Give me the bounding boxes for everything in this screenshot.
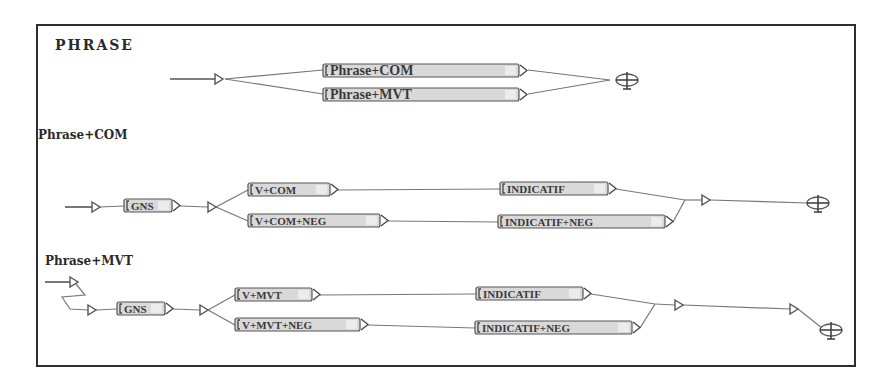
state-arrow-icon (790, 304, 798, 314)
graph-box[interactable]: INDICATIF (500, 182, 616, 195)
state-arrow-icon (200, 305, 208, 315)
box-highlight (505, 90, 516, 99)
transition-edge (100, 206, 124, 207)
box-highlight (618, 323, 629, 332)
output-arrow-icon (331, 184, 338, 195)
final-state-icon (820, 322, 842, 339)
transition-edge (62, 284, 88, 310)
graphs-layer: Phrase+COMPhrase+MVTGNSV+COMV+COM+NEGIND… (45, 63, 842, 340)
output-arrow-icon (313, 289, 320, 300)
transition-edge (640, 304, 655, 328)
output-arrow-icon (166, 303, 173, 314)
output-arrow-icon (609, 183, 616, 194)
transition-edge (216, 207, 248, 221)
box-highlight (651, 217, 662, 226)
box-label: V+MVT (242, 289, 283, 301)
transition-edge (673, 200, 685, 222)
transition-edge (528, 80, 610, 94)
transition-edge (96, 309, 117, 310)
title-phrase-com: Phrase+COM (38, 128, 128, 142)
transition-edge (683, 305, 790, 309)
transition-edge (798, 309, 822, 328)
output-arrow-icon (381, 215, 388, 226)
graph-box[interactable]: V+COM+NEG (248, 214, 388, 227)
graph-phrase-mvt: GNSV+MVTV+MVT+NEGINDICATIFINDICATIF+NEG (45, 277, 842, 339)
box-highlight (158, 201, 169, 210)
output-arrow-icon (361, 319, 368, 330)
box-label: Phrase+MVT (330, 87, 413, 102)
transition-edge (320, 294, 476, 295)
transition-edge (208, 310, 235, 325)
initial-state-icon (92, 202, 100, 212)
transition-edge (528, 70, 610, 80)
graph-box[interactable]: V+COM (248, 183, 338, 196)
graph-box[interactable]: GNS (117, 302, 173, 315)
box-label: GNS (131, 200, 154, 212)
box-label: V+COM+NEG (255, 215, 327, 227)
transition-edge (338, 189, 500, 190)
graph-box[interactable]: INDICATIF+NEG (475, 321, 640, 334)
title-phrase: PHRASE (55, 37, 134, 53)
title-phrase-mvt: Phrase+MVT (45, 254, 133, 268)
box-label: V+COM (255, 184, 297, 196)
state-arrow-icon (88, 305, 96, 315)
final-state-icon (807, 195, 829, 212)
graph-box[interactable]: Phrase+COM (323, 63, 527, 78)
graph-box[interactable]: V+MVT+NEG (235, 318, 368, 331)
transition-edge (591, 294, 655, 304)
output-arrow-icon (520, 65, 527, 76)
graph-box[interactable]: INDICATIF (476, 287, 591, 300)
graph-box[interactable]: Phrase+MVT (323, 87, 527, 102)
state-arrow-icon (702, 195, 710, 205)
transition-edge (225, 79, 323, 94)
output-arrow-icon (633, 322, 640, 333)
output-arrow-icon (666, 216, 673, 227)
graph-box[interactable]: V+MVT (235, 288, 320, 301)
box-highlight (298, 290, 309, 299)
state-arrow-icon (208, 202, 216, 212)
transition-edge (216, 190, 248, 207)
transition-edge (388, 221, 498, 222)
transition-edge (225, 70, 323, 79)
transition-edge (655, 304, 675, 305)
box-label: INDICATIF+NEG (505, 216, 593, 228)
transition-edge (208, 295, 235, 310)
graph-box[interactable]: GNS (124, 199, 180, 212)
initial-state-icon (215, 74, 223, 84)
box-highlight (316, 185, 327, 194)
output-arrow-icon (173, 200, 180, 211)
output-arrow-icon (520, 89, 527, 100)
box-highlight (569, 289, 580, 298)
box-highlight (346, 320, 357, 329)
box-label: INDICATIF (483, 288, 541, 300)
transition-edge (368, 325, 475, 328)
state-arrow-icon (675, 300, 683, 310)
final-state-icon (616, 72, 638, 89)
titles-layer: PHRASEPhrase+COMPhrase+MVT (38, 37, 134, 268)
box-label: V+MVT+NEG (242, 319, 312, 331)
box-label: INDICATIF (507, 183, 565, 195)
diagram-canvas: PHRASEPhrase+COMPhrase+MVT Phrase+COMPhr… (0, 0, 880, 387)
transition-edge (180, 206, 208, 207)
output-arrow-icon (584, 288, 591, 299)
transition-edge (616, 189, 685, 200)
box-label: GNS (124, 303, 147, 315)
transition-edge (710, 200, 808, 203)
box-highlight (151, 304, 162, 313)
graph-box[interactable]: INDICATIF+NEG (498, 215, 673, 228)
graph-phrase-com: GNSV+COMV+COM+NEGINDICATIFINDICATIF+NEG (65, 182, 829, 228)
box-highlight (366, 216, 377, 225)
box-highlight (594, 184, 605, 193)
graph-phrase: Phrase+COMPhrase+MVT (170, 63, 638, 102)
box-label: Phrase+COM (330, 63, 413, 78)
box-label: INDICATIF+NEG (482, 322, 570, 334)
box-highlight (505, 66, 516, 75)
transition-edge (173, 309, 200, 310)
